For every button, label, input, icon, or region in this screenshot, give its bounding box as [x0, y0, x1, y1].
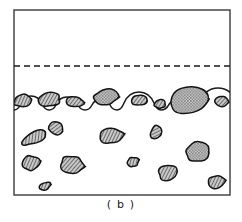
figure-panel-b: ( b )	[0, 0, 242, 222]
figure-canvas	[0, 0, 242, 222]
surface-particle-5	[131, 95, 147, 105]
figure-caption: ( b )	[0, 198, 242, 212]
surface-particle-5-outline	[131, 95, 147, 105]
figure-background	[0, 0, 242, 222]
